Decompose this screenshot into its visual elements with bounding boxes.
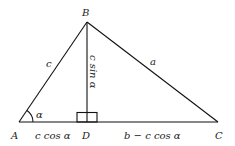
vertex-label-A: A <box>10 130 18 141</box>
altitude-label: c sin α <box>88 55 99 89</box>
side-c <box>19 22 87 122</box>
segment-label-AD: c cos α <box>35 130 71 141</box>
side-label-a: a <box>150 56 156 67</box>
angle-arc-alpha <box>27 111 33 123</box>
triangle-diagram: A B C D c a α c cos α b − c cos α c sin … <box>0 0 235 146</box>
angle-label-alpha: α <box>36 109 43 120</box>
vertex-label-C: C <box>215 130 223 141</box>
segment-label-DC: b − c cos α <box>124 130 181 141</box>
vertex-label-D: D <box>81 130 90 141</box>
vertex-label-B: B <box>81 7 89 18</box>
side-label-c: c <box>46 58 52 69</box>
side-a <box>87 22 218 122</box>
